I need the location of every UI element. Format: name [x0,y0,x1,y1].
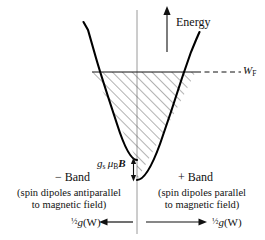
plus-band-description-line1: (spin dipoles parallel [140,187,264,199]
dos-label-right-arg: (W) [224,216,242,228]
energy-arrow-icon [163,6,170,52]
band-diagram-figure: Energy WF gs μBB − Band + Band (spin dip… [0,0,265,240]
energy-axis-label: Energy [176,16,210,29]
occupied-states-right [134,70,209,185]
fermi-level-subscript: F [252,69,256,78]
zeeman-splitting-arrow [131,158,136,182]
plus-band-description: (spin dipoles parallel to magnetic field… [140,187,264,211]
dos-label-left-arg: (W) [83,216,101,228]
dos-arrow-left [99,218,133,225]
minus-band-description-line1: (spin dipoles antiparallel [5,187,133,199]
zeeman-b-symbol: B [118,157,125,169]
dos-label-left: ½g(W) [71,216,101,228]
minus-band-label: − Band [55,171,90,184]
plus-band-description-line2: to magnetic field) [140,199,264,211]
zeeman-energy-label: gs μBB [97,157,125,171]
plus-band-label: + Band [178,171,213,184]
minus-band-description: (spin dipoles antiparallel to magnetic f… [5,187,133,211]
minus-band-description-line2: to magnetic field) [5,199,133,211]
dos-arrow-right [146,218,207,225]
fermi-level-symbol: W [243,64,252,76]
dos-label-right: ½g(W) [212,216,242,228]
fermi-level-label: WF [243,64,256,78]
